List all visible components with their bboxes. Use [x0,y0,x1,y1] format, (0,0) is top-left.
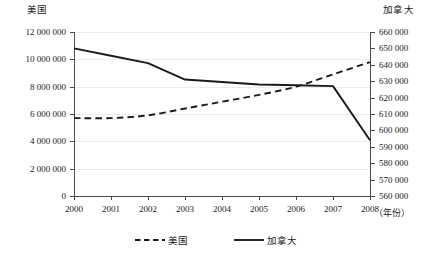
x-tick-label: 2001 [102,204,120,214]
right-tick-label: 620 000 [379,93,408,103]
gridline [75,59,370,60]
left-tick-label: 6 000 000 [0,109,66,119]
right-tick-label: 570 000 [379,175,408,185]
x-tick-label: 2006 [287,204,305,214]
right-axis-line [370,32,371,197]
right-tick-label: 660 000 [379,27,408,37]
legend-item-usa: 美国 [135,233,188,247]
right-tick-label: 580 000 [379,158,408,168]
gridline [75,32,370,33]
series-line-canada [74,48,370,140]
x-tick-label: 2002 [139,204,157,214]
left-tick-label: 12 000 000 [0,27,66,37]
left-axis-title: 美国 [27,2,48,16]
chart-legend: 美国 加拿大 [0,233,431,247]
right-tick-label: 610 000 [379,109,408,119]
right-tick-label: 640 000 [379,60,408,70]
legend-swatch-dashed [135,235,165,245]
gridline [75,169,370,170]
legend-swatch-solid [234,235,264,245]
x-tick-label: 2000 [65,204,83,214]
right-tick-label: 600 000 [379,125,408,135]
left-tick-label: 2 000 000 [0,164,66,174]
gridline [75,141,370,142]
left-tick-label: 0 [0,191,66,201]
gridline [75,87,370,88]
left-tick-label: 10 000 000 [0,54,66,64]
legend-item-canada: 加拿大 [234,233,297,247]
x-tick-label: 2005 [250,204,268,214]
legend-label-usa: 美国 [168,233,188,247]
right-tick-label: 630 000 [379,76,408,86]
right-axis-title: 加拿大 [383,2,414,16]
series-line-usa [74,62,370,118]
left-axis-line [74,32,75,197]
left-tick-label: 8 000 000 [0,82,66,92]
line-chart: 美国 加拿大 02 000 0004 000 0006 000 0008 000… [0,0,431,257]
x-tick-label: 2003 [176,204,194,214]
x-axis-unit-label: （年份） [374,206,410,219]
legend-label-canada: 加拿大 [267,233,297,247]
series-layer [0,0,431,257]
left-tick-label: 4 000 000 [0,136,66,146]
x-tick-label: 2004 [213,204,231,214]
gridline [75,114,370,115]
right-tick-label: 590 000 [379,142,408,152]
x-tick-label: 2007 [324,204,342,214]
x-axis-line [74,196,371,197]
right-tick-label: 650 000 [379,43,408,53]
right-tick-label: 560 000 [379,191,408,201]
